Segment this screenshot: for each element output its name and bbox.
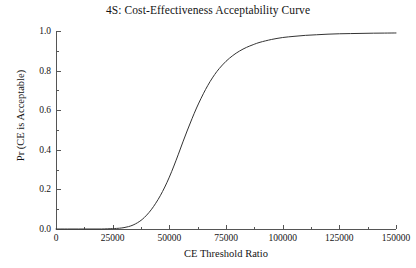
y-axis-label: Pr (CE is Acceptable) [15, 46, 26, 186]
y-tick-label: 0.6 [29, 105, 51, 115]
y-tick-label: 0.4 [29, 145, 51, 155]
y-tick-label: 1.0 [29, 26, 51, 36]
y-tick-label: 0.0 [29, 224, 51, 234]
x-tick-label: 125000 [325, 233, 354, 243]
y-tick-label: 0.8 [29, 66, 51, 76]
x-tick-label: 150000 [382, 233, 411, 243]
ceac-curve [56, 33, 396, 229]
x-tick-label: 0 [54, 233, 59, 243]
x-axis-label: CE Threshold Ratio [56, 248, 396, 259]
chart-page: 4S: Cost-Effectiveness Acceptability Cur… [0, 0, 416, 268]
x-tick-label: 75000 [214, 233, 238, 243]
y-tick-label: 0.2 [29, 184, 51, 194]
x-tick-label: 25000 [101, 233, 125, 243]
plot-area [56, 31, 396, 229]
curve-layer [56, 31, 396, 229]
x-tick-label: 50000 [157, 233, 181, 243]
x-tick-label: 100000 [268, 233, 297, 243]
